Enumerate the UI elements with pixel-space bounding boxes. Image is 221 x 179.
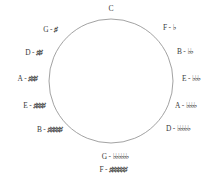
key-label-f: F-♭ bbox=[163, 24, 175, 32]
key-label-g: G-♯ bbox=[43, 26, 57, 34]
key-signature-sharps: ♯ bbox=[54, 25, 57, 34]
tonic-name: E bbox=[23, 101, 28, 110]
key-label-f-sharp: F-♯♯♯♯♯♯ bbox=[99, 166, 126, 174]
key-signature-flats: ♭♭♭♭♭ bbox=[177, 124, 190, 133]
key-signature-flats: ♭♭ bbox=[187, 47, 192, 56]
key-signature-sharps: ♯♯ bbox=[36, 48, 42, 57]
key-label-b: B-♯♯♯♯♯ bbox=[37, 126, 62, 134]
key-signature-sharps: ♯♯♯ bbox=[28, 74, 37, 83]
fifths-circle-shape bbox=[49, 19, 173, 143]
key-signature-sharps: ♯♯♯♯♯ bbox=[48, 125, 63, 134]
key-signature-flats: ♭♭♭ bbox=[192, 74, 200, 83]
key-signature-flats: ♭♭♭♭ bbox=[186, 101, 196, 110]
key-signature-flats: ♭♭♭♭♭♭ bbox=[113, 152, 128, 161]
key-label-a-flat: A-♭♭♭♭ bbox=[175, 102, 196, 110]
key-signature-sharps: ♯♯♯♯ bbox=[33, 101, 45, 110]
key-label-a: A-♯♯♯ bbox=[17, 75, 37, 83]
key-label-g-flat: G-♭♭♭♭♭♭ bbox=[102, 153, 128, 161]
tonic-name: C bbox=[108, 4, 113, 13]
key-signature-sharps: ♯♯♯♯♯♯ bbox=[109, 165, 126, 174]
key-signature-flats: ♭ bbox=[173, 23, 176, 32]
key-label-c: C bbox=[108, 5, 113, 13]
key-label-e-flat: E-♭♭♭ bbox=[182, 75, 200, 83]
circle-of-fifths-diagram: CG-♯D-♯♯A-♯♯♯E-♯♯♯♯B-♯♯♯♯♯F-♯♯♯♯♯♯G-♭♭♭♭… bbox=[0, 0, 221, 179]
key-label-e: E-♯♯♯♯ bbox=[23, 102, 45, 110]
key-label-b-flat: B-♭♭ bbox=[177, 48, 193, 56]
key-label-d: D-♯♯ bbox=[25, 49, 42, 57]
key-label-d-flat: D-♭♭♭♭♭ bbox=[166, 125, 190, 133]
tonic-name: E bbox=[182, 74, 187, 83]
